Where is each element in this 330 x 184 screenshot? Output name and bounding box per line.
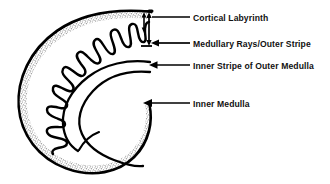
- cortex-inner-scalloped-edge: [47, 22, 149, 154]
- leader-inner-medulla: [143, 99, 190, 107]
- label-inner-medulla: Inner Medulla: [193, 99, 250, 109]
- label-inner-stripe-of-outer-medulla: Inner Stripe of Outer Medulla: [193, 61, 314, 71]
- leader-inner-stripe: [149, 61, 190, 69]
- region-cortex: [19, 11, 151, 173]
- kidney-zones-figure: Cortical Labyrinth Medullary Rays/Outer …: [0, 0, 330, 184]
- leader-medullary-rays: [151, 39, 190, 46]
- label-medullary-rays-outer-stripe: Medullary Rays/Outer Stripe: [193, 39, 311, 49]
- label-cortical-labyrinth: Cortical Labyrinth: [193, 13, 268, 23]
- cortex-stipple-fill: [20, 12, 151, 172]
- kidney-diagram: [0, 0, 330, 184]
